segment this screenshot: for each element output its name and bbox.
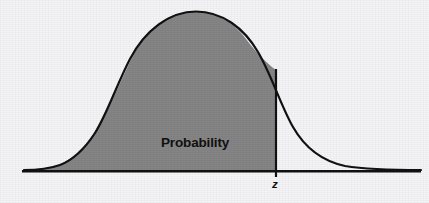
shaded-probability-region — [24, 12, 276, 171]
probability-area-label: Probability — [161, 136, 229, 150]
normal-distribution-figure: Probability z — [0, 0, 429, 203]
z-axis-label: z — [272, 179, 278, 191]
bell-curve-svg — [0, 0, 429, 203]
